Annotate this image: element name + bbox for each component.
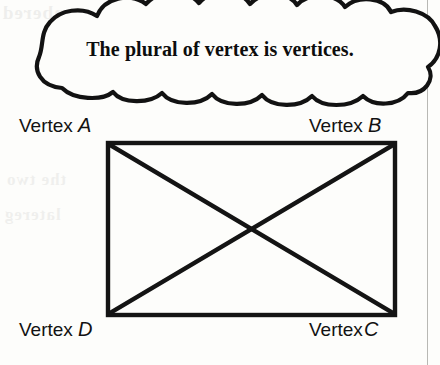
vertex-label-d: VertexD [19,320,92,339]
vertex-label-a: VertexA [19,116,91,135]
vertex-label-b: VertexB [309,116,381,135]
worksheet-page: nbered the two latereg The plural of ver… [0,0,440,365]
vertex-label-d-prefix: Vertex [19,319,73,340]
vertex-label-a-prefix: Vertex [19,115,73,136]
vertex-label-c-letter: C [364,318,378,340]
vertex-label-c: VertexC [309,320,378,339]
vertex-label-b-prefix: Vertex [309,115,363,136]
vertex-label-c-prefix: Vertex [309,319,363,340]
vertex-label-b-letter: B [368,114,381,136]
rectangle-diagram [0,0,440,365]
vertex-label-d-letter: D [78,318,92,340]
vertex-label-a-letter: A [78,114,91,136]
